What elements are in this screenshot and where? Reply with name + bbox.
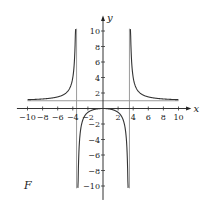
- y-tick-label: 10: [90, 27, 100, 36]
- y-tick-label: −6: [88, 151, 100, 160]
- x-tick-label: −4: [67, 113, 79, 122]
- x-axis-label: x: [194, 103, 200, 114]
- y-tick-label: 2: [95, 89, 100, 98]
- y-tick-label: −8: [88, 167, 100, 176]
- x-tick-label: 4: [131, 113, 136, 122]
- x-tick-label: −10: [19, 113, 36, 122]
- x-tick-label: −6: [52, 113, 64, 122]
- y-tick-label: −10: [83, 182, 100, 191]
- axes: [17, 16, 191, 200]
- right-branch-curve: [130, 29, 178, 99]
- x-tick-label: 8: [161, 113, 166, 122]
- y-tick-label: −4: [88, 136, 100, 145]
- x-tick-label: 10: [173, 113, 183, 122]
- y-tick-label: −2: [88, 120, 100, 129]
- x-tick-label: −8: [37, 113, 49, 122]
- y-tick-label: 6: [95, 58, 100, 67]
- function-graph: −10−8−6−4−2246810−10−8−6−4−2246810 x y F: [0, 0, 206, 210]
- y-tick-label: 8: [95, 43, 100, 52]
- x-tick-label: 6: [146, 113, 151, 122]
- panel-label: F: [23, 179, 32, 192]
- y-axis-label: y: [106, 12, 113, 23]
- y-tick-label: 4: [95, 74, 100, 83]
- left-branch-curve: [28, 29, 76, 99]
